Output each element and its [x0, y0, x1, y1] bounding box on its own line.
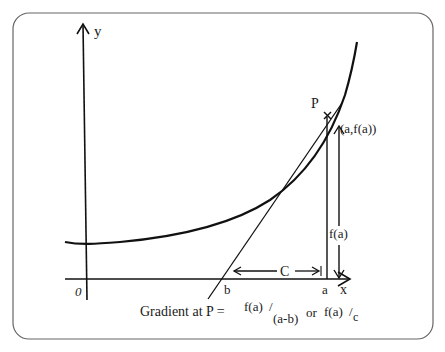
function-curve	[65, 42, 357, 244]
x-axis-label: x	[340, 282, 347, 297]
caption-num1: f(a)	[244, 299, 263, 314]
caption-den2: c	[353, 310, 358, 324]
caption-den1: (a-b)	[273, 311, 298, 326]
y-axis-label: y	[94, 23, 102, 39]
base-label: C	[280, 264, 289, 279]
point-a-label: a	[322, 282, 328, 297]
tangent-line	[208, 103, 342, 299]
point-b-label: b	[224, 282, 231, 297]
caption-num2: f(a)	[324, 304, 343, 319]
base-arrow	[234, 266, 321, 276]
point-p-coords: (a,f(a))	[340, 121, 376, 136]
x-axis	[65, 272, 350, 286]
gradient-caption: Gradient at P = f(a) / (a-b) or f(a) / c	[140, 299, 358, 326]
point-p-label: P	[311, 96, 319, 111]
caption-or: or	[306, 305, 318, 320]
height-arrow	[334, 126, 344, 278]
y-axis	[77, 24, 89, 300]
origin-label: 0	[75, 284, 82, 299]
height-label: f(a)	[329, 226, 348, 241]
caption-prefix: Gradient at P =	[140, 304, 225, 319]
tangent-gradient-diagram: y x 0 P (a,f(a)) a f(a) C b Gradient at …	[0, 0, 445, 352]
